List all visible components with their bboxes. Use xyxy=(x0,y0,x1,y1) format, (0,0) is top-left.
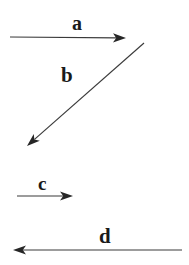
vector-b xyxy=(27,43,144,146)
vector-label-a: a xyxy=(72,13,82,33)
vector-a-shaft xyxy=(10,37,116,38)
vector-label-c: c xyxy=(38,174,46,193)
vector-d xyxy=(13,245,182,254)
vector-label-d: d xyxy=(99,226,111,247)
vector-diagram: a b c d xyxy=(0,0,189,265)
vector-a xyxy=(10,33,126,42)
vector-label-b: b xyxy=(61,65,73,86)
vector-b-shaft xyxy=(35,43,144,139)
vector-canvas xyxy=(0,0,189,265)
